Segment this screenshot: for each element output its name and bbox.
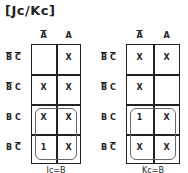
row-variable: C xyxy=(15,113,21,122)
map-cell: X xyxy=(31,83,56,92)
row-header: B C xyxy=(101,83,116,92)
grid-divider xyxy=(126,74,180,76)
jc-result-label: Jc=B xyxy=(31,166,81,173)
column-header: A xyxy=(56,31,81,40)
map-cell: X xyxy=(56,83,81,92)
row-variable: B xyxy=(101,143,107,152)
row-header: B C xyxy=(6,53,21,62)
grid-divider xyxy=(31,104,81,106)
grid-divider xyxy=(31,74,81,76)
row-variable: B xyxy=(6,83,12,92)
row-header: B C xyxy=(101,113,116,122)
row-variable: C xyxy=(110,143,116,152)
row-header: B C xyxy=(101,143,116,152)
column-variable: A xyxy=(65,31,71,40)
row-variable: B xyxy=(101,113,107,122)
row-header: B C xyxy=(6,83,21,92)
row-variable: C xyxy=(110,83,116,92)
karnaugh-maps: AAB CB CB CB CXXXXX1XJc=BAAB CB CB CB CX… xyxy=(0,0,188,173)
row-variable: B xyxy=(6,143,12,152)
row-variable: B xyxy=(101,83,107,92)
column-variable: A xyxy=(40,31,46,40)
row-header: B C xyxy=(6,113,21,122)
column-variable: A xyxy=(136,31,142,40)
column-variable: A xyxy=(163,31,169,40)
grouping-loop xyxy=(130,108,176,160)
row-variable: B xyxy=(6,53,12,62)
map-cell: X xyxy=(153,53,180,62)
map-cell: X xyxy=(126,53,153,62)
grouping-loop xyxy=(35,108,77,160)
grid-divider xyxy=(126,104,180,106)
column-header: A xyxy=(126,31,153,40)
column-header: A xyxy=(31,31,56,40)
row-header: B C xyxy=(6,143,21,152)
row-variable: C xyxy=(110,53,116,62)
map-cell: X xyxy=(56,53,81,62)
column-header: A xyxy=(153,31,180,40)
row-variable: B xyxy=(6,113,12,122)
kc-result-label: Kc=B xyxy=(126,166,180,173)
row-variable: C xyxy=(110,113,116,122)
row-header: B C xyxy=(101,53,116,62)
row-variable: C xyxy=(15,83,21,92)
row-variable: C xyxy=(15,143,21,152)
row-variable: B xyxy=(101,53,107,62)
row-variable: C xyxy=(15,53,21,62)
map-cell: X xyxy=(126,83,153,92)
